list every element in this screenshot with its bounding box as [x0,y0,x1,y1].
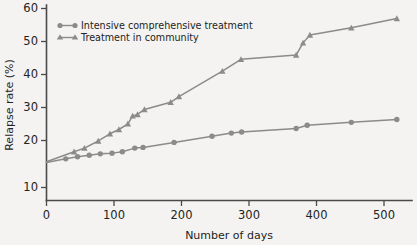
legend-label-intensive: Intensive comprehensive treatment [81,20,253,31]
data-point-circle [229,130,234,135]
y-tick-label-40: 40 [23,67,38,81]
x-axis-ticks [47,201,385,207]
data-point-circle [132,145,137,150]
y-axis-title: Relapse rate (%) [3,59,16,151]
x-tick-label-100: 100 [103,208,125,222]
data-point-circle [140,145,145,150]
x-tick-label-300: 300 [238,208,260,222]
relapse-rate-line-chart: Relapse rate (%) 60 50 40 30 20 10 [0,0,417,245]
y-axis-ticks [41,9,47,188]
data-point-circle [98,151,103,156]
data-point-triangle [95,138,101,144]
data-point-circle [304,123,309,128]
data-point-circle [120,149,125,154]
data-point-circle [293,126,298,131]
data-point-circle [394,117,399,122]
x-tick-label-0: 0 [43,208,50,222]
legend-marker-circle-right [72,23,77,28]
data-point-circle [109,150,114,155]
x-tick-label-500: 500 [373,208,395,222]
y-tick-label-50: 50 [23,34,38,48]
data-point-circle [349,120,354,125]
chart-legend: Intensive comprehensive treatment Treatm… [57,20,253,43]
y-tick-label-20: 20 [23,133,38,147]
legend-marker-circle-left [57,23,62,28]
data-point-triangle [81,145,87,151]
legend-label-community: Treatment in community [80,32,199,43]
data-point-triangle [176,93,182,99]
data-point-circle [209,134,214,139]
chart-canvas: Relapse rate (%) 60 50 40 30 20 10 [0,0,417,245]
legend-item-treatment-in-community: Treatment in community [57,32,199,43]
x-axis-title: Number of days [185,229,273,242]
y-tick-label-10: 10 [23,180,38,194]
data-point-circle [171,140,176,145]
data-point-circle [63,156,68,161]
data-point-triangle [219,68,225,74]
data-point-circle [87,153,92,158]
x-tick-label-200: 200 [171,208,193,222]
data-point-triangle [107,131,113,137]
legend-item-intensive-comprehensive-treatment: Intensive comprehensive treatment [57,20,252,31]
x-tick-label-400: 400 [306,208,328,222]
y-tick-label-30: 30 [23,100,38,114]
data-point-circle [239,129,244,134]
y-tick-label-60: 60 [23,1,38,15]
data-point-circle [75,154,80,159]
